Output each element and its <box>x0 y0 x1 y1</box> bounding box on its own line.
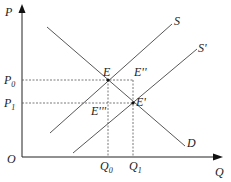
label-s: S <box>174 14 180 28</box>
quantity-axis-arrow-icon <box>213 154 223 161</box>
figure-caption <box>30 174 220 182</box>
price-axis-arrow-icon <box>19 4 26 13</box>
label-s-prime: S' <box>198 41 207 55</box>
demand-curve-d <box>47 27 185 146</box>
q0-label: Q0 <box>100 159 113 175</box>
p1-label: P1 <box>3 96 15 112</box>
supply-curve-s <box>50 24 172 133</box>
label-e-triple-prime: E''' <box>90 104 106 118</box>
label-e-double-prime: E'' <box>133 65 147 79</box>
point-e-prime-marker <box>131 101 134 104</box>
price-axis-label: P <box>4 5 13 19</box>
p0-label: P0 <box>3 73 15 89</box>
label-e-prime: E' <box>135 95 146 109</box>
origin-label: O <box>7 152 16 166</box>
q1-label: Q1 <box>129 159 142 175</box>
supply-demand-diagram: P Q O P0 P1 Q0 Q1 S S' D E E'' E' E''' <box>0 0 231 182</box>
label-e: E <box>102 65 111 79</box>
label-d: D <box>186 136 196 150</box>
